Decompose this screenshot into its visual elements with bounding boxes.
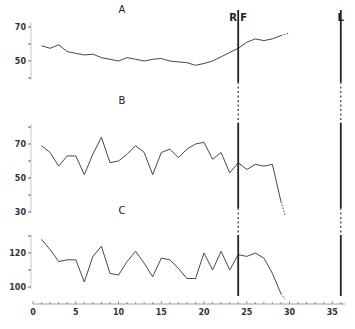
marker-label: L [338,12,345,23]
panel-label: C [119,205,126,216]
x-tick-label: 35 [327,308,339,317]
panel-c: 100120C [9,205,285,299]
series-line [42,36,282,66]
x-tick-label: 20 [198,308,210,317]
x-tick-label: 10 [113,308,125,317]
series-dotted-extension [281,33,290,36]
marker-rf: R F [229,10,247,296]
y-tick-label: 50 [15,57,27,66]
y-tick-label: 100 [9,283,26,292]
x-axis: 05101520253035 [30,301,345,317]
x-tick-label: 5 [73,308,79,317]
marker-l: L [338,10,345,296]
chart-canvas: 5070A305070B100120C R FL 05101520253035 [0,0,355,329]
series-dotted-extension [281,202,285,216]
y-tick-label: 70 [15,140,27,149]
panels: 5070A305070B100120C [9,4,289,299]
panel-label: B [119,95,126,106]
x-tick-label: 25 [241,308,253,317]
y-tick-label: 30 [15,208,27,217]
marker-lines: R FL [229,10,344,296]
series-dotted-extension [281,294,285,299]
panel-b: 305070B [15,95,285,217]
y-tick-label: 50 [15,174,27,183]
x-tick-label: 30 [284,308,296,317]
y-tick-label: 120 [9,249,26,258]
y-tick-label: 70 [15,23,27,32]
x-tick-label: 15 [156,308,168,317]
panel-label: A [119,4,126,15]
series-line [42,137,282,202]
panel-a: 5070A [15,4,290,80]
marker-label: R F [229,12,247,23]
series-line [42,239,282,293]
x-tick-label: 0 [30,308,36,317]
